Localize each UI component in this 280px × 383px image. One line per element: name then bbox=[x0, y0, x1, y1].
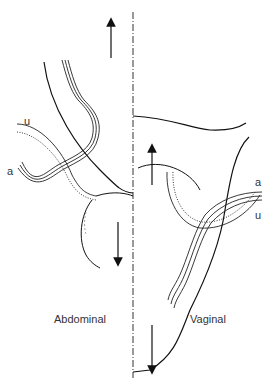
surgical-approach-diagram: u a Abdominal a u Vaginal bbox=[0, 0, 280, 383]
label-artery-right: a bbox=[255, 176, 262, 188]
label-ureter-left: u bbox=[24, 115, 30, 127]
label-artery-left: a bbox=[7, 165, 14, 177]
abdominal-panel: u a Abdominal bbox=[7, 22, 133, 325]
abdominal-title: Abdominal bbox=[54, 313, 106, 325]
label-ureter-right: u bbox=[255, 209, 261, 221]
vaginal-panel: a u Vaginal bbox=[133, 116, 262, 372]
vaginal-title: Vaginal bbox=[190, 313, 226, 325]
